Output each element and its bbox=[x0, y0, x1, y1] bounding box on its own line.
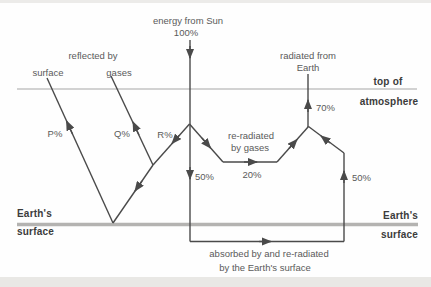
label-r-percent: R% bbox=[157, 130, 172, 141]
label-earths-left-2: surface bbox=[17, 226, 54, 238]
label-radiated-from: radiated from bbox=[280, 51, 336, 62]
r-arrowhead bbox=[172, 136, 179, 144]
label-sun-100-percent: 100% bbox=[174, 28, 198, 39]
label-20-percent: 20% bbox=[242, 170, 261, 181]
label-reflected-gases: gases bbox=[106, 68, 131, 79]
label-radiated-earth: Earth bbox=[297, 63, 320, 74]
label-down-50-percent: 50% bbox=[195, 172, 214, 183]
to-gases-arrowhead bbox=[202, 138, 211, 148]
label-reflected-by: reflected by bbox=[68, 51, 117, 62]
gases-to-merge-arrowhead bbox=[289, 140, 297, 149]
surface-to-merge-arrowhead bbox=[321, 136, 330, 143]
to-surface-arrowhead bbox=[135, 181, 142, 191]
label-earths-left-1: Earth's bbox=[17, 208, 52, 220]
diagram-line-art bbox=[0, 0, 431, 287]
label-by-gases: by gases bbox=[231, 143, 269, 154]
label-p-percent: P% bbox=[48, 129, 63, 140]
label-reflected-surface: surface bbox=[32, 68, 63, 79]
label-q-percent: Q% bbox=[114, 129, 130, 140]
q-arrowhead bbox=[133, 122, 139, 135]
label-70-percent: 70% bbox=[316, 103, 335, 114]
label-top-of: top of bbox=[374, 76, 403, 88]
label-earths-right-1: Earth's bbox=[383, 210, 418, 222]
label-energy-from-sun: energy from Sun bbox=[153, 16, 223, 27]
bend-to-surface-line bbox=[113, 165, 153, 223]
label-up-50-percent: 50% bbox=[352, 173, 371, 184]
label-absorbed-2: by the Earth's surface bbox=[219, 263, 311, 274]
label-re-radiated: re-radiated bbox=[228, 131, 274, 142]
label-absorbed-1: absorbed by and re-radiated bbox=[209, 249, 328, 260]
label-atmosphere: atmosphere bbox=[360, 96, 419, 108]
energy-transfer-diagram: energy from Sun 100% reflected by surfac… bbox=[0, 0, 431, 287]
label-earths-right-2: surface bbox=[381, 229, 418, 241]
p-reflected-by-surface-line bbox=[47, 78, 113, 223]
p-arrowhead bbox=[67, 121, 73, 134]
